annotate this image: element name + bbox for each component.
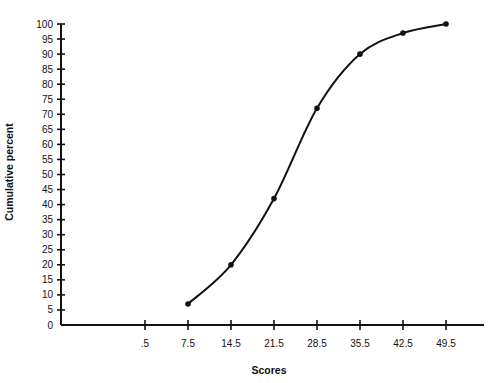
- y-tick-label: 100: [36, 19, 53, 30]
- y-tick-label: 75: [42, 94, 54, 105]
- y-tick-label: 90: [42, 49, 54, 60]
- y-tick-label: 0: [47, 320, 53, 331]
- cumulative-percent-chart: 0510152025303540455055606570758085909510…: [0, 0, 499, 383]
- data-point-marker: [400, 30, 406, 36]
- x-tick-label: 49.5: [436, 338, 456, 349]
- y-tick-label: 20: [42, 259, 54, 270]
- y-tick-label: 60: [42, 139, 54, 150]
- x-axis: .57.514.521.528.535.542.549.5: [61, 320, 484, 349]
- y-tick-label: 65: [42, 124, 54, 135]
- y-axis: 0510152025303540455055606570758085909510…: [36, 19, 65, 331]
- data-point-marker: [443, 21, 449, 27]
- data-point-marker: [271, 196, 277, 202]
- x-tick-label: .5: [141, 338, 150, 349]
- y-tick-label: 25: [42, 244, 54, 255]
- y-tick-label: 55: [42, 154, 54, 165]
- x-tick-label: 7.5: [181, 338, 195, 349]
- x-tick-label: 21.5: [264, 338, 284, 349]
- data-point-marker: [357, 51, 363, 57]
- x-tick-label: 28.5: [307, 338, 327, 349]
- y-tick-label: 5: [47, 304, 53, 315]
- y-tick-label: 50: [42, 169, 54, 180]
- y-tick-label: 30: [42, 229, 54, 240]
- x-tick-label: 42.5: [393, 338, 413, 349]
- y-axis-title: Cumulative percent: [3, 123, 15, 221]
- x-axis-title: Scores: [251, 364, 286, 376]
- y-tick-label: 85: [42, 64, 54, 75]
- data-point-marker: [185, 301, 191, 307]
- y-tick-label: 70: [42, 109, 54, 120]
- y-tick-label: 35: [42, 214, 54, 225]
- data-point-marker: [228, 262, 234, 268]
- x-tick-label: 14.5: [221, 338, 241, 349]
- plot-area: [185, 21, 449, 307]
- y-tick-label: 10: [42, 289, 54, 300]
- y-tick-label: 40: [42, 199, 54, 210]
- data-point-marker: [314, 105, 320, 111]
- y-tick-label: 95: [42, 34, 54, 45]
- y-tick-label: 45: [42, 184, 54, 195]
- x-tick-label: 35.5: [350, 338, 370, 349]
- ogive-curve: [188, 24, 446, 304]
- y-tick-label: 15: [42, 274, 54, 285]
- y-tick-label: 80: [42, 79, 54, 90]
